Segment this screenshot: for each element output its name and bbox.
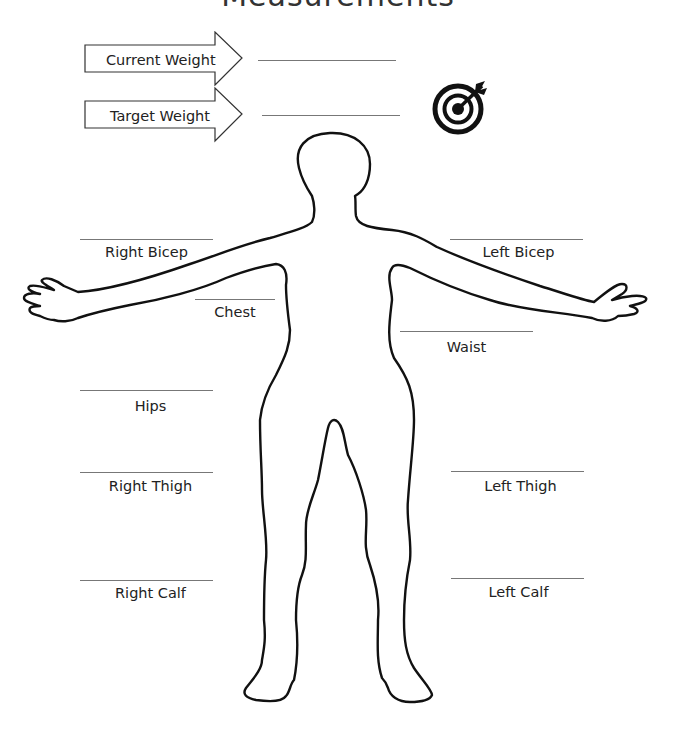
left-bicep-label: Left Bicep — [452, 244, 585, 260]
right-thigh-input[interactable] — [80, 472, 213, 473]
hips-input[interactable] — [80, 390, 213, 391]
left-thigh-label: Left Thigh — [454, 478, 587, 494]
body-silhouette — [0, 0, 676, 731]
right-calf-input[interactable] — [80, 580, 213, 581]
right-calf-label: Right Calf — [84, 585, 217, 601]
left-calf-label: Left Calf — [452, 584, 585, 600]
right-bicep-label: Right Bicep — [80, 244, 213, 260]
right-thigh-label: Right Thigh — [84, 478, 217, 494]
left-bicep-input[interactable] — [450, 239, 583, 240]
waist-label: Waist — [400, 339, 533, 355]
hips-label: Hips — [84, 398, 217, 414]
left-calf-input[interactable] — [451, 578, 584, 579]
chest-label: Chest — [195, 304, 275, 320]
right-bicep-input[interactable] — [80, 239, 213, 240]
left-thigh-input[interactable] — [451, 471, 584, 472]
waist-input[interactable] — [400, 331, 533, 332]
chest-input[interactable] — [195, 299, 275, 300]
body-outline — [24, 133, 646, 702]
